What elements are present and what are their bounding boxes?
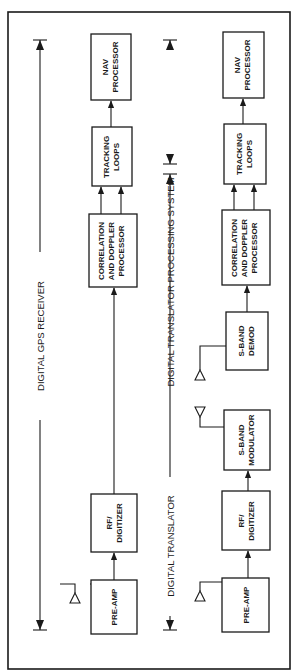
svg-text:NAV: NAV: [233, 56, 242, 73]
bottom-preamp-block: PRE-AMP: [222, 578, 269, 632]
svg-text:RF/: RF/: [237, 514, 246, 528]
svg-text:S-BAND: S-BAND: [237, 325, 246, 356]
bottom-tracking-loops-block: TRACKING LOOPS: [224, 124, 266, 184]
svg-text:DIGITIZER: DIGITIZER: [115, 503, 124, 543]
bottom-sband-demod-block: S-BAND DEMOD: [226, 312, 268, 370]
antenna-icon: [195, 591, 205, 601]
svg-text:RF/: RF/: [105, 516, 114, 530]
svg-text:DIGITIZER: DIGITIZER: [247, 501, 256, 541]
antenna-icon: [195, 407, 205, 417]
span-processing-system: DIGITAL TRANSLATOR PROCESSING SYSTEM: [163, 40, 177, 387]
bottom-sband-modulator-block: S-BAND MODULATOR: [224, 410, 270, 470]
antenna-icon: [70, 593, 80, 603]
top-preamp-block: PRE-AMP: [91, 580, 137, 634]
svg-text:PROCESSOR: PROCESSOR: [243, 39, 252, 90]
bottom-row: PRE-AMP RF/ DIGITIZER S-BAND MODULATOR S…: [195, 32, 270, 632]
svg-text:PROCESSOR: PROCESSOR: [117, 225, 126, 276]
top-rf-digitizer-block: RF/ DIGITIZER: [91, 494, 137, 552]
svg-text:NAV: NAV: [101, 58, 110, 75]
svg-text:PROCESSOR: PROCESSOR: [111, 41, 120, 92]
antenna-icon: [195, 370, 205, 380]
svg-text:LOOPS: LOOPS: [112, 142, 121, 171]
svg-text:TRACKING: TRACKING: [235, 133, 244, 175]
top-tracking-loops-block: TRACKING LOOPS: [92, 127, 132, 186]
svg-text:LOOPS: LOOPS: [245, 139, 254, 168]
svg-text:DEMOD: DEMOD: [247, 326, 256, 356]
block-diagram: DIGITAL GPS RECEIVER DIGITAL TRANSLATOR …: [0, 0, 306, 672]
translator-label: DIGITAL TRANSLATOR: [165, 495, 176, 596]
bottom-rf-digitizer-block: RF/ DIGITIZER: [222, 491, 270, 550]
gps-receiver-label: DIGITAL GPS RECEIVER: [35, 281, 46, 391]
top-correlation-block: CORRELATION AND DOPPLER PROCESSOR: [89, 214, 137, 287]
svg-text:AND DOPPLER: AND DOPPLER: [107, 222, 116, 280]
svg-text:S-BAND: S-BAND: [237, 424, 246, 455]
svg-text:PRE-AMP: PRE-AMP: [110, 588, 119, 626]
processing-system-label: DIGITAL TRANSLATOR PROCESSING SYSTEM: [165, 177, 176, 386]
top-nav-processor-block: NAV PROCESSOR: [91, 34, 131, 100]
svg-text:PRE-AMP: PRE-AMP: [242, 586, 251, 624]
svg-text:CORRELATION: CORRELATION: [230, 219, 239, 277]
svg-text:CORRELATION: CORRELATION: [97, 222, 106, 280]
svg-text:TRACKING: TRACKING: [102, 136, 111, 178]
rotated-diagram: DIGITAL GPS RECEIVER DIGITAL TRANSLATOR …: [0, 0, 306, 672]
bottom-nav-processor-block: NAV PROCESSOR: [223, 32, 264, 98]
svg-text:AND DOPPLER: AND DOPPLER: [240, 219, 249, 277]
span-gps-receiver: DIGITAL GPS RECEIVER: [33, 40, 47, 630]
svg-text:MODULATOR: MODULATOR: [247, 414, 256, 465]
svg-text:PROCESSOR: PROCESSOR: [250, 222, 259, 273]
top-row: PRE-AMP RF/ DIGITIZER CORRELATION AND DO…: [60, 34, 137, 634]
bottom-correlation-block: CORRELATION AND DOPPLER PROCESSOR: [222, 210, 270, 285]
